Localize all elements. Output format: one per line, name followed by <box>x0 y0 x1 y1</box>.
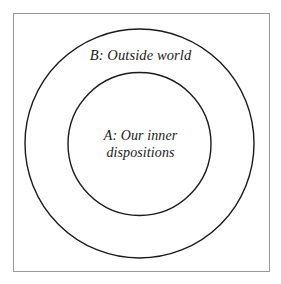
inner-circle-label: A: Our inner dispositions <box>0 128 281 161</box>
outer-circle-label: B: Outside world <box>0 47 281 64</box>
